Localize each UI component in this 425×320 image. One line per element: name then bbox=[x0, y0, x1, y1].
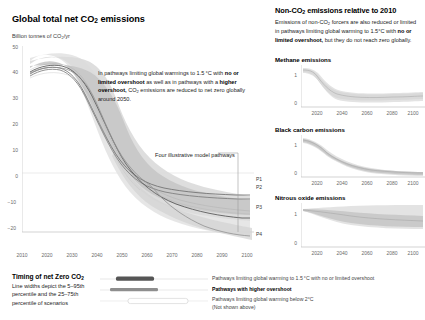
main-annotation: In pathways limiting global warmings to … bbox=[98, 69, 258, 103]
methane-y-tick-0: 0 bbox=[287, 100, 297, 106]
global-co2-panel: Global total net CO2 emissions Billion t… bbox=[0, 0, 272, 268]
x-tick-2040: 2040 bbox=[85, 252, 109, 258]
y-tick-30: 30 bbox=[2, 95, 18, 101]
black-carbon-panel: Black carbon emissions 1 0 2020 2040 206… bbox=[275, 126, 423, 188]
legend-label-no-overshoot: Pathways limiting global warming to 1.5 … bbox=[212, 275, 374, 281]
x-tick-2010: 2010 bbox=[10, 252, 34, 258]
black-carbon-svg bbox=[301, 135, 425, 181]
n2o-y-tick-0: 0 bbox=[287, 240, 297, 246]
legend-label-higher-overshoot: Pathways with higher overshoot bbox=[212, 286, 292, 292]
legend-swatch-higher-overshoot bbox=[100, 287, 208, 293]
x-tick-2080: 2080 bbox=[185, 252, 209, 258]
methane-plot bbox=[301, 65, 425, 115]
y-tick-0: 0 bbox=[2, 173, 18, 179]
bc-y-tick-1: 1 bbox=[287, 142, 297, 148]
x-tick-2100: 2100 bbox=[235, 252, 259, 258]
nitrous-oxide-panel-title: Nitrous oxide emissions bbox=[275, 194, 345, 201]
pathway-label-P3: P3 bbox=[256, 204, 262, 210]
right-panel-description: Emissions of non-CO2 forcers are also re… bbox=[275, 18, 421, 44]
methane-panel: Methane emissions 1 0 2020 2040 2060 208… bbox=[275, 56, 423, 118]
y-tick-40: 40 bbox=[2, 69, 18, 75]
n2o-y-tick-1: 1 bbox=[287, 211, 297, 217]
methane-y-tick-1: 1 bbox=[287, 72, 297, 78]
y-tick-m10: −10 bbox=[0, 199, 16, 205]
pathways-callout: Four illustrative model pathways bbox=[155, 152, 235, 158]
legend-swatch-below-2c bbox=[100, 297, 208, 305]
y-tick-10: 10 bbox=[2, 147, 18, 153]
pathway-label-P1: P1 bbox=[256, 176, 262, 182]
black-carbon-panel-title: Black carbon emissions bbox=[275, 126, 345, 133]
x-tick-2090: 2090 bbox=[210, 252, 234, 258]
pathway-label-P4: P4 bbox=[256, 231, 262, 237]
x-tick-2050: 2050 bbox=[110, 252, 134, 258]
x-tick-2030: 2030 bbox=[60, 252, 84, 258]
y-tick-20: 20 bbox=[2, 121, 18, 127]
legend-swatch-no-overshoot bbox=[100, 276, 208, 282]
bc-y-tick-0: 0 bbox=[287, 170, 297, 176]
y-tick-50: 50 bbox=[2, 44, 18, 50]
black-carbon-plot bbox=[301, 135, 425, 185]
pathway-label-P2: P2 bbox=[256, 184, 262, 190]
methane-svg bbox=[301, 65, 425, 111]
x-tick-2020: 2020 bbox=[35, 252, 59, 258]
legend-title: Timing of net Zero CO2 bbox=[12, 273, 84, 281]
page-title: Global total net CO2 emissions bbox=[12, 14, 145, 24]
legend-label-below-2c: Pathways limiting global warming below 2… bbox=[212, 296, 314, 302]
legend-label-not-shown: (Not shown above) bbox=[212, 304, 256, 310]
nitrous-oxide-svg bbox=[301, 203, 425, 251]
y-axis-title: Billion tonnes of CO2/yr bbox=[12, 33, 70, 40]
methane-panel-title: Methane emissions bbox=[275, 56, 331, 63]
legend: Timing of net Zero CO2 Line widths depic… bbox=[0, 268, 424, 320]
x-tick-2070: 2070 bbox=[160, 252, 184, 258]
x-tick-2060: 2060 bbox=[135, 252, 159, 258]
y-tick-m20: −20 bbox=[0, 225, 16, 231]
nitrous-oxide-plot bbox=[301, 203, 425, 255]
nitrous-oxide-panel: Nitrous oxide emissions 1 0 2020 2040 20… bbox=[275, 194, 423, 258]
legend-subtitle: Line widths depict the 5–95th percentile… bbox=[12, 282, 104, 307]
bc-band bbox=[303, 139, 423, 175]
non-co2-panel: Non-CO2 emissions relative to 2010 Emiss… bbox=[272, 0, 424, 268]
right-panel-title: Non-CO2 emissions relative to 2010 bbox=[275, 6, 396, 15]
